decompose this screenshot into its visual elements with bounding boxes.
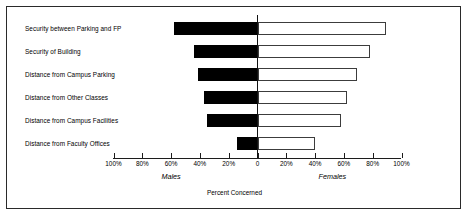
bar-track — [7, 109, 462, 132]
x-axis-tick — [315, 153, 316, 158]
x-axis-tick — [114, 153, 115, 158]
bar-males — [204, 91, 257, 104]
plot-area: Security between Parking and FPSecurity … — [7, 7, 462, 210]
bar-males — [207, 114, 257, 127]
bar-females — [258, 114, 342, 127]
x-axis-tick — [171, 153, 172, 158]
x-axis-tick — [402, 153, 403, 158]
bar-males — [174, 22, 258, 35]
bar-track — [7, 86, 462, 109]
bar-females — [258, 45, 370, 58]
bar-track — [7, 132, 462, 155]
bar-females — [258, 22, 386, 35]
x-axis-tick — [200, 153, 201, 158]
zero-axis-line — [257, 15, 258, 158]
bar-males — [198, 68, 257, 81]
group-label-females: Females — [292, 172, 372, 181]
bar-track — [7, 17, 462, 40]
chart-category-row: Security of Building — [7, 40, 462, 63]
x-axis-tick — [229, 153, 230, 158]
bar-track — [7, 40, 462, 63]
x-axis-title: Percent Concerned — [7, 189, 462, 196]
x-axis-tick — [344, 153, 345, 158]
x-axis-tick — [373, 153, 374, 158]
bar-males — [194, 45, 257, 58]
chart-category-row: Distance from Other Classes — [7, 86, 462, 109]
bar-males — [237, 137, 257, 150]
bar-track — [7, 63, 462, 86]
chart-category-row: Security between Parking and FP — [7, 17, 462, 40]
bar-females — [258, 137, 316, 150]
chart-category-row: Distance from Faculty Offices — [7, 132, 462, 155]
x-axis-tick — [286, 153, 287, 158]
x-axis-tick-label: 100% — [382, 160, 422, 167]
x-axis-tick — [258, 153, 259, 158]
chart-category-row: Distance from Campus Facilities — [7, 109, 462, 132]
bar-females — [258, 91, 347, 104]
chart-figure: Security between Parking and FPSecurity … — [6, 6, 461, 209]
x-axis-tick — [142, 153, 143, 158]
x-axis-line — [113, 158, 401, 159]
chart-category-row: Distance from Campus Parking — [7, 63, 462, 86]
group-label-males: Males — [131, 172, 211, 181]
bar-females — [258, 68, 357, 81]
